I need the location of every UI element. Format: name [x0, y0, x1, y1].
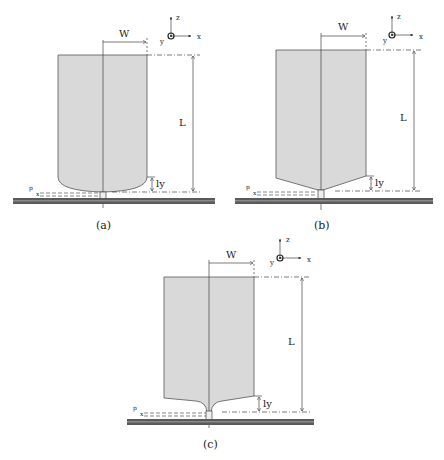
svg-text:x: x: [36, 190, 40, 197]
coordinate-axes: z x y: [269, 236, 311, 267]
width-label: W: [226, 249, 237, 260]
ly-label: ly: [375, 177, 384, 188]
svg-text:x: x: [140, 410, 144, 417]
width-label: W: [338, 21, 349, 32]
coordinate-axes: z x y: [159, 14, 201, 46]
svg-text:y: y: [159, 38, 164, 46]
panel-c: W z x y L ly p x (c): [127, 236, 314, 451]
figure: W z x y L ly p x (a): [0, 0, 444, 460]
svg-text:p: p: [133, 404, 137, 412]
panel-a: W z x y L ly p x (a): [13, 14, 215, 232]
width-label: W: [119, 28, 130, 39]
ly-label: ly: [263, 398, 272, 409]
svg-text:y: y: [382, 37, 387, 45]
caption-b: (b): [314, 219, 330, 232]
svg-text:x: x: [419, 33, 423, 41]
tip-body-rounded: [58, 55, 147, 192]
caption-c: (c): [203, 438, 218, 451]
svg-text:x: x: [197, 33, 201, 41]
panel-b: W z x y L ly p x (b): [235, 13, 433, 232]
svg-text:x: x: [253, 189, 257, 196]
length-label: L: [179, 117, 186, 128]
svg-text:z: z: [286, 236, 290, 244]
svg-text:z: z: [397, 13, 401, 21]
caption-a: (a): [96, 219, 111, 232]
svg-text:p: p: [246, 183, 250, 191]
length-label: L: [400, 112, 407, 123]
coordinate-axes: z x y: [382, 13, 423, 45]
svg-text:p: p: [29, 184, 33, 192]
length-label: L: [288, 336, 295, 347]
svg-text:y: y: [269, 259, 274, 267]
svg-text:x: x: [307, 256, 311, 264]
ly-label: ly: [156, 178, 165, 189]
svg-text:z: z: [176, 14, 180, 22]
